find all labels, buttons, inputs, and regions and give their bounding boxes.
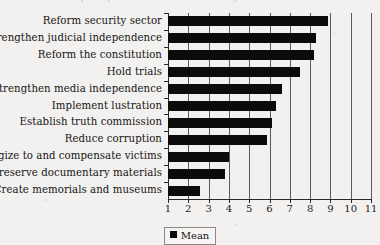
category-label: Reform security sector bbox=[43, 13, 162, 30]
legend-swatch-mean-icon bbox=[170, 231, 177, 238]
category-label: Strengthen judicial independence bbox=[0, 30, 162, 47]
x-tick-label: 4 bbox=[218, 203, 240, 215]
x-tick-label: 2 bbox=[177, 203, 199, 215]
gridline-11 bbox=[371, 13, 372, 199]
x-tick-label: 3 bbox=[198, 203, 220, 215]
bar-row: Reduce corruption bbox=[0, 131, 371, 148]
bar bbox=[168, 16, 328, 26]
x-tick-label: 9 bbox=[319, 203, 341, 215]
x-tick-label: 6 bbox=[259, 203, 281, 215]
row-tick bbox=[164, 148, 168, 149]
bar-row: Implement lustration bbox=[0, 98, 371, 115]
category-label: Apologize to and compensate victims bbox=[0, 148, 162, 165]
bar bbox=[168, 50, 314, 60]
category-label: Implement lustration bbox=[52, 98, 162, 115]
category-label: Reduce corruption bbox=[65, 131, 162, 148]
x-tick-label: 8 bbox=[299, 203, 321, 215]
legend: Mean bbox=[0, 225, 380, 245]
bar bbox=[168, 67, 300, 77]
row-tick bbox=[164, 165, 168, 166]
row-tick bbox=[164, 47, 168, 48]
category-label: Establish truth commission bbox=[20, 114, 162, 131]
cut-off-title-text: Popular preferences for transitional jus… bbox=[70, 0, 311, 2]
row-tick bbox=[164, 131, 168, 132]
bar-row: Create memorials and museums bbox=[0, 182, 371, 199]
bar bbox=[168, 84, 282, 94]
category-label: Hold trials bbox=[107, 64, 162, 81]
legend-label-mean: Mean bbox=[181, 230, 210, 242]
x-tick-label: 7 bbox=[279, 203, 301, 215]
bar bbox=[168, 118, 272, 128]
bar-row: Apologize to and compensate victims bbox=[0, 148, 371, 165]
x-tick-label: 1 bbox=[157, 203, 179, 215]
bar bbox=[168, 33, 316, 43]
bar-row: Preserve documentary materials bbox=[0, 165, 371, 182]
cut-off-title: Popular preferences for transitional jus… bbox=[0, 0, 380, 9]
bar-row: Establish truth commission bbox=[0, 114, 371, 131]
bar bbox=[168, 186, 200, 196]
bar bbox=[168, 101, 276, 111]
bar-row: Reform the constitution bbox=[0, 47, 371, 64]
category-label: Preserve documentary materials bbox=[0, 165, 162, 182]
bar-row: Strengthen judicial independence bbox=[0, 30, 371, 47]
bar bbox=[168, 152, 229, 162]
bar-row: Hold trials bbox=[0, 64, 371, 81]
row-tick bbox=[164, 98, 168, 99]
row-tick bbox=[164, 30, 168, 31]
row-tick bbox=[164, 182, 168, 183]
category-label: Strengthen media independence bbox=[0, 81, 162, 98]
row-tick bbox=[164, 81, 168, 82]
bar-row: Reform security sector bbox=[0, 13, 371, 30]
x-tick-label: 5 bbox=[238, 203, 260, 215]
row-tick bbox=[164, 114, 168, 115]
x-tick-label: 10 bbox=[340, 203, 362, 215]
category-label: Reform the constitution bbox=[38, 47, 162, 64]
legend-box: Mean bbox=[164, 227, 217, 245]
bar bbox=[168, 135, 267, 145]
row-tick bbox=[164, 13, 168, 14]
row-tick bbox=[164, 64, 168, 65]
category-label: Create memorials and museums bbox=[0, 182, 162, 199]
bar bbox=[168, 169, 225, 179]
bar-row: Strengthen media independence bbox=[0, 81, 371, 98]
x-tick-label: 11 bbox=[360, 203, 380, 215]
